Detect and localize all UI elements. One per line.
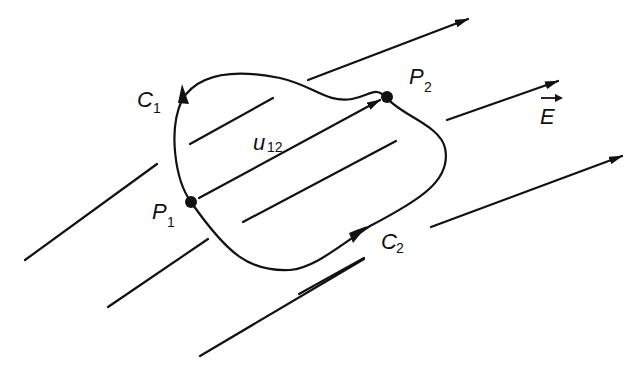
label-field-e: E	[540, 94, 563, 129]
c2-direction-arrow-head	[349, 226, 367, 243]
contour-c1	[174, 73, 386, 202]
field-line	[299, 258, 364, 294]
label-c2: C 2	[381, 229, 404, 256]
svg-text:P: P	[152, 199, 167, 224]
u12-path	[199, 100, 380, 198]
svg-text:12: 12	[267, 139, 283, 155]
field-line	[108, 239, 208, 307]
svg-text:1: 1	[153, 100, 161, 116]
label-p2: P 2	[409, 64, 432, 95]
label-p1: P 1	[152, 199, 175, 230]
point-p2	[381, 91, 393, 103]
svg-text:u: u	[253, 130, 265, 155]
svg-text:P: P	[409, 64, 424, 89]
svg-text:2: 2	[424, 79, 432, 95]
field-line-arrow-bottom	[431, 156, 622, 227]
field-line	[25, 164, 157, 260]
label-u12: u 12	[253, 130, 283, 155]
label-c1: C 1	[137, 87, 161, 116]
svg-text:1: 1	[167, 214, 175, 230]
field-line	[120, 270, 160, 295]
field-line-arrow-top	[308, 19, 468, 80]
svg-text:C: C	[137, 87, 153, 112]
svg-text:C: C	[381, 229, 397, 254]
svg-text:E: E	[540, 104, 555, 129]
field-diagram: C 1 P 2 u 12 P 1 C 2 E	[0, 0, 637, 374]
svg-text:2: 2	[396, 240, 404, 256]
point-p1	[185, 196, 197, 208]
field-line	[243, 141, 396, 222]
field-line	[200, 259, 364, 356]
